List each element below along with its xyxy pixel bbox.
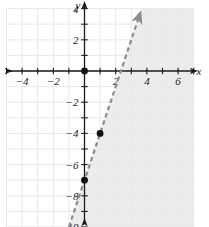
- x-tick-label: −2: [47, 75, 60, 87]
- coordinate-graph: −4−224642−2−4−6−8−10 x y: [0, 0, 209, 227]
- y-tick-label: −4: [66, 127, 79, 139]
- x-tick-label: 4: [144, 75, 150, 87]
- origin-point: [81, 68, 88, 75]
- x-tick-label: 6: [175, 75, 181, 87]
- x-axis-label: x: [196, 65, 202, 77]
- graph-canvas: −4−224642−2−4−6−8−10 x y: [0, 0, 209, 227]
- point-on-line-1: [97, 130, 104, 137]
- y-tick-label: −2: [66, 96, 79, 108]
- y-tick-label: 2: [73, 34, 79, 46]
- point-on-line-2: [81, 177, 88, 184]
- x-tick-label: −4: [16, 75, 29, 87]
- y-tick-label: −6: [66, 159, 79, 171]
- y-axis-label: y: [75, 0, 81, 11]
- y-tick-label: −8: [66, 190, 79, 202]
